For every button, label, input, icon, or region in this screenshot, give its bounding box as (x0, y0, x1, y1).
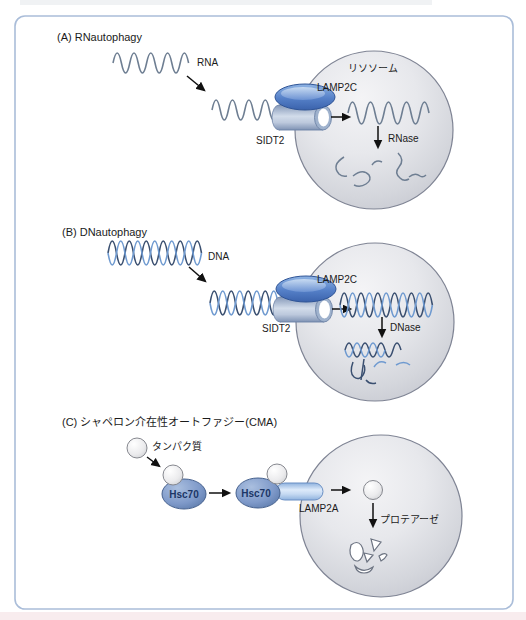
protein-inside-lysosome (364, 481, 383, 500)
autophagy-figure: (A) RNautophagy リソソーム RNA LAMP2C SIDT2 R… (0, 0, 526, 620)
protease-label: プロテアーゼ (380, 514, 439, 525)
dnase-label: DNase (390, 322, 421, 333)
lamp2c-label-b: LAMP2C (317, 274, 357, 285)
figure-page: (A) RNautophagy リソソーム RNA LAMP2C SIDT2 R… (0, 0, 526, 620)
lamp2a-receptor (276, 483, 323, 500)
sidt2-label-a: SIDT2 (256, 135, 285, 146)
rna-label: RNA (197, 57, 218, 68)
protein-on-hsc70-1 (163, 465, 183, 485)
lamp2a-label: LAMP2A (299, 503, 339, 514)
rnase-label: RNase (388, 133, 419, 144)
hsc70-label-1: Hsc70 (169, 489, 199, 500)
panel-b-title: (B) DNautophagy (62, 226, 147, 238)
protein-label: タンパク質 (152, 440, 202, 452)
sidt2-label-b: SIDT2 (262, 323, 291, 334)
page-edge-top (20, 0, 432, 5)
protein-on-hsc70-2 (267, 464, 287, 484)
protein-circle (127, 438, 147, 458)
page-edge-bottom (0, 612, 526, 620)
hsc70-label-2: Hsc70 (241, 488, 271, 499)
lysosome-label: リソソーム (348, 63, 398, 74)
panel-a-title: (A) RNautophagy (57, 31, 142, 43)
lamp2c-label-a: LAMP2C (317, 82, 357, 93)
dna-label: DNA (208, 251, 229, 262)
panel-c-title: (C) シャペロン介在性オートファジー(CMA) (62, 415, 277, 428)
